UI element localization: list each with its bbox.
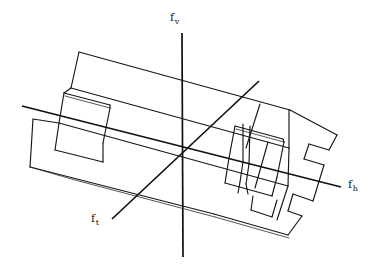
f-horizontal-axis-label: fh xyxy=(348,179,358,190)
f-vertical-axis-label: fv xyxy=(170,12,179,23)
technical-drawing-svg xyxy=(0,0,383,265)
f-horizontal-label-base: f xyxy=(348,178,352,191)
f-tangential-axis xyxy=(112,81,259,219)
f-tangential-label-subscript: t xyxy=(96,218,99,227)
f-vertical-axis xyxy=(182,33,183,257)
right-end-profile xyxy=(288,110,337,235)
f-tangential-label-base: f xyxy=(91,212,95,225)
f-vertical-label-subscript: v xyxy=(175,17,180,26)
f-vertical-label-base: f xyxy=(170,11,174,24)
left-slot-pocket xyxy=(55,93,110,162)
part-top-face-band xyxy=(59,88,289,186)
diagram-canvas: fv fh ft xyxy=(0,0,383,265)
axis-group xyxy=(22,33,341,257)
f-tangential-axis-label: ft xyxy=(91,213,99,224)
f-horizontal-label-subscript: h xyxy=(353,184,358,193)
